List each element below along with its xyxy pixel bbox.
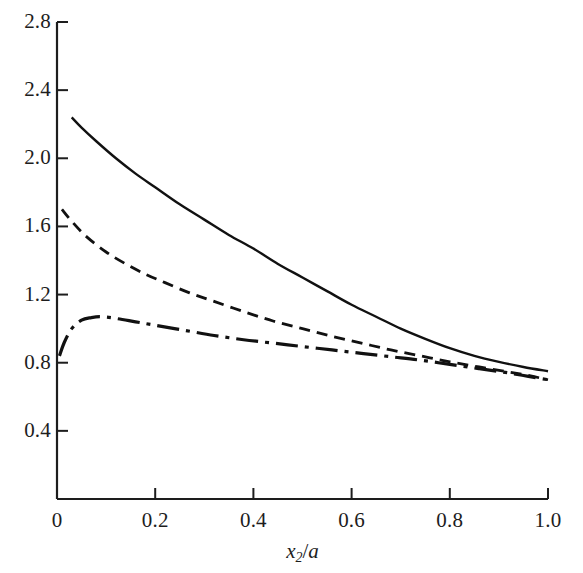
x-tick-label-4: 0.8 [420, 508, 480, 533]
y-tick-label-6: 2.8 [5, 9, 51, 34]
y-tick-label-2: 1.2 [5, 282, 51, 307]
y-tick-label-5: 2.4 [5, 77, 51, 102]
x-tick-label-1: 0.2 [125, 508, 185, 533]
x-tick-label-0: 0 [27, 508, 87, 533]
y-tick-label-0: 0.4 [5, 418, 51, 443]
line-chart-canvas [0, 0, 583, 573]
y-tick-label-4: 2.0 [5, 145, 51, 170]
x-tick-label-2: 0.4 [223, 508, 283, 533]
x-axis-title: x2/a [243, 539, 363, 564]
series-path-solid-curve [72, 117, 548, 371]
series-group [59, 117, 548, 379]
series-path-dash-dot-curve [59, 317, 548, 380]
x-tick-label-5: 1.0 [518, 508, 578, 533]
chart-figure: 0.40.81.21.62.02.42.800.20.40.60.81.0 x2… [0, 0, 583, 573]
y-tick-label-1: 0.8 [5, 350, 51, 375]
x-tick-label-3: 0.6 [322, 508, 382, 533]
y-tick-label-3: 1.6 [5, 213, 51, 238]
axes-group [57, 22, 548, 499]
series-path-dashed-curve [62, 209, 548, 379]
